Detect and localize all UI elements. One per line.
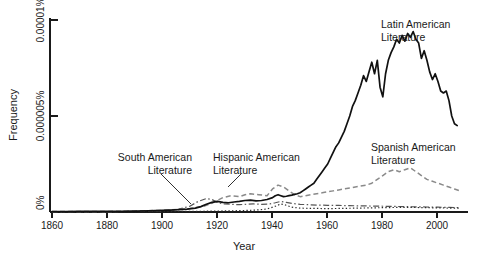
chart-canvas: 0.00001% 0.000005% 0% Frequency 1860 188… [0,0,481,257]
x-tick-label-6: 1980 [371,220,394,231]
annotation-south-american-literature: South American Literature [118,151,192,176]
y-axis-tick-labels: 0.00001% 0.000005% 0% [35,0,46,210]
annotation-latin-line2: Literature [381,31,426,43]
annotation-south-line2: Literature [148,164,193,176]
y-axis-title: Frequency [7,89,19,141]
y-tick-label-0: 0% [35,195,46,210]
annotation-south-line1: South American [118,151,192,163]
x-tick-label-5: 1960 [316,220,339,231]
y-tick-label-1: 0.000005% [35,91,46,142]
annotation-spanish-line2: Literature [371,154,416,166]
y-axis-ticks [50,20,58,116]
ngram-frequency-chart: 0.00001% 0.000005% 0% Frequency 1860 188… [0,0,481,257]
annotation-spanish-american-literature: Spanish American Literature [371,141,456,166]
y-tick-label-2: 0.00001% [35,0,46,43]
annotation-hispanic-american-literature: Hispanic American Literature [213,151,300,176]
x-tick-label-0: 1860 [41,220,64,231]
x-axis-ticks [52,212,437,218]
leader-line-south-american [161,174,191,204]
x-axis-title: Year [233,240,256,252]
x-tick-label-4: 1940 [261,220,284,231]
annotation-spanish-line1: Spanish American [371,141,456,153]
series-line-latin-american [52,32,457,212]
x-tick-label-7: 2000 [426,220,449,231]
annotation-hispanic-line1: Hispanic American [213,151,300,163]
annotation-latin-line1: Latin American [381,18,451,30]
x-axis-tick-labels: 1860 1880 1900 1920 1940 1960 1980 2000 [41,220,449,231]
x-tick-label-1: 1880 [96,220,119,231]
x-tick-label-3: 1920 [206,220,229,231]
annotation-latin-american-literature: Latin American Literature [381,18,451,43]
annotation-hispanic-line2: Literature [213,164,258,176]
x-tick-label-2: 1900 [151,220,174,231]
